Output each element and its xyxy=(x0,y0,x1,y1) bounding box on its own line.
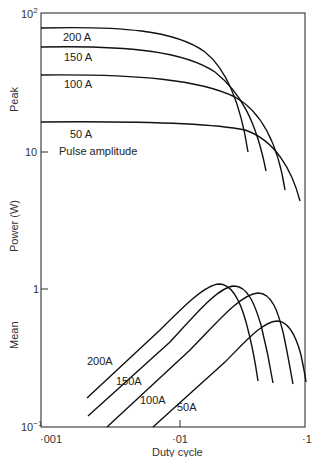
mean-curve-50a xyxy=(153,321,306,427)
y-axis-title-power: Power (W) xyxy=(8,200,20,252)
y-tick-label-10: 10 xyxy=(25,146,37,158)
mean-label-200a: 200A xyxy=(87,355,113,367)
y-tick-label-1: 1 xyxy=(33,283,39,295)
mean-label-50a: 50A xyxy=(177,401,197,413)
pulse-amplitude-annotation: Pulse amplitude xyxy=(59,145,137,157)
x-tick-label-01: ·01 xyxy=(172,433,188,445)
y-axis-title-peak: Peak xyxy=(8,86,20,112)
mean-curve-150a xyxy=(88,286,273,416)
power-duty-cycle-chart: 102 10 1 10−1 ·001 ·01 ·1 Duty cycle Pea… xyxy=(0,0,319,457)
mean-label-150a: 150A xyxy=(116,375,142,387)
y-tick-label-01: 10−1 xyxy=(21,419,43,433)
y-tick-label-100: 102 xyxy=(21,6,38,20)
peak-label-50a: 50 A xyxy=(70,128,93,140)
y-axis-title-mean: Mean xyxy=(8,321,20,349)
x-axis-title: Duty cycle xyxy=(152,446,203,457)
mean-curve-100a xyxy=(107,293,293,427)
mean-curve-200a xyxy=(87,284,258,398)
peak-label-150a: 150 A xyxy=(64,51,93,63)
mean-label-100a: 100A xyxy=(140,394,166,406)
x-tick-label-1: ·1 xyxy=(302,433,312,445)
peak-label-200a: 200 A xyxy=(63,31,92,43)
x-tick-label-001: ·001 xyxy=(40,433,62,445)
peak-label-100a: 100 A xyxy=(64,78,93,90)
